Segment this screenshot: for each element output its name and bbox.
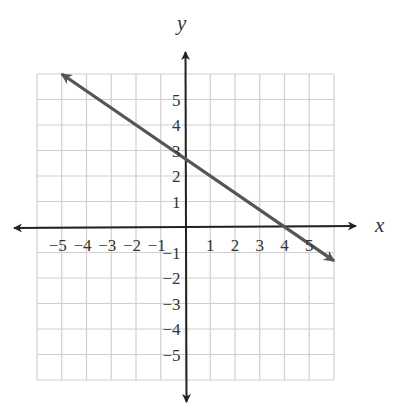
x-tick-label: 3 — [256, 236, 265, 255]
y-tick-label: −3 — [162, 295, 180, 314]
x-tick-label: 5 — [305, 236, 314, 255]
y-tick-label: 5 — [172, 91, 181, 110]
y-tick-label: 4 — [172, 116, 181, 135]
y-tick-label: −2 — [162, 269, 180, 288]
x-axis-label: x — [374, 213, 385, 237]
coordinate-plane-figure: −5−4−3−2−11234554321−1−2−3−4−5 x y — [0, 0, 401, 416]
y-tick-label: −4 — [162, 320, 181, 339]
x-tick-label: −4 — [73, 236, 92, 255]
coordinate-plane: −5−4−3−2−11234554321−1−2−3−4−5 x y — [0, 0, 401, 416]
line-series — [62, 74, 334, 261]
y-axis — [186, 52, 187, 402]
y-tick-label: 3 — [172, 142, 181, 161]
x-tick-label: −5 — [49, 236, 67, 255]
x-tick-label: 2 — [231, 236, 240, 255]
x-tick-label: −3 — [98, 236, 116, 255]
plotted-line — [62, 74, 334, 261]
x-tick-label: 4 — [280, 236, 289, 255]
y-tick-label: 2 — [172, 167, 181, 186]
y-tick-label: −5 — [162, 346, 180, 365]
x-tick-label: −2 — [123, 236, 141, 255]
y-tick-label: 1 — [172, 193, 181, 212]
y-axis-label: y — [175, 11, 187, 35]
y-tick-label: −1 — [162, 244, 180, 263]
x-tick-label: 1 — [206, 236, 215, 255]
